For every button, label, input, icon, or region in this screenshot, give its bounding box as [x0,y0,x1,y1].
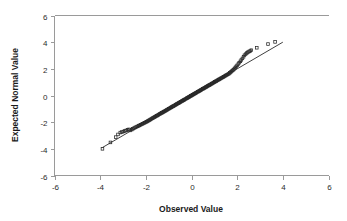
y-tick-label: 6 [43,13,48,22]
y-tick-label: 0 [43,93,48,102]
x-tick-label: 0 [190,183,195,192]
x-tick-label: 2 [235,183,240,192]
y-tick-label: -2 [40,119,48,128]
x-tick-label: -2 [143,183,151,192]
y-axis-title: Expected Normal Value [10,48,20,142]
x-axis-title: Observed Value [159,204,223,214]
x-tick-label: 6 [327,183,332,192]
qq-plot-screenshot: -6-4-20246 -6-4-20246 Observed Value Exp… [0,0,347,221]
qq-plot-figure: -6-4-20246 -6-4-20246 Observed Value Exp… [0,0,347,221]
y-tick-label: -6 [40,173,48,182]
x-tick-label: -4 [97,183,105,192]
x-tick-label: 4 [281,183,286,192]
x-tick-label: -6 [52,183,60,192]
y-tick-label: 4 [43,39,48,48]
y-tick-label: -4 [40,146,48,155]
y-tick-label: 2 [43,66,48,75]
